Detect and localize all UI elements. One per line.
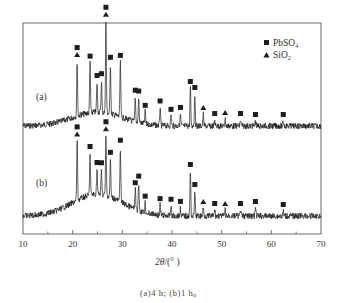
svg-text:20: 20: [68, 239, 78, 249]
pbso4-square-icon: [95, 73, 100, 78]
svg-text:10: 10: [19, 239, 29, 249]
sio2-triangle-icon: [103, 12, 109, 17]
pbso4-square-icon: [192, 182, 197, 187]
x-axis-tick-labels: 10203040506070: [19, 239, 327, 249]
pbso4-square-icon: [95, 160, 100, 165]
pbso4-square-icon: [143, 194, 148, 199]
legend-label-sio2: SiO2: [273, 50, 291, 61]
pbso4-square-icon: [212, 201, 217, 206]
pbso4-square-icon: [238, 111, 243, 116]
x-axis-title: 2θ/(° ): [155, 257, 180, 268]
curve-label-a: (a): [36, 92, 47, 103]
legend: PbSO4 SiO2: [264, 38, 299, 61]
legend-square-icon: [264, 40, 269, 45]
xrd-curve-b: [23, 136, 321, 219]
pbso4-square-icon: [118, 138, 123, 143]
pbso4-square-icon: [108, 55, 113, 60]
pbso4-square-icon: [188, 79, 193, 84]
pbso4-square-icon: [192, 85, 197, 90]
phase-markers-a: [74, 5, 286, 117]
pbso4-square-icon: [212, 111, 217, 116]
pbso4-square-icon: [253, 112, 258, 117]
phase-markers-b: [74, 119, 286, 207]
svg-text:40: 40: [168, 239, 178, 249]
figure-caption: (a)4 h; (b)1 h。: [0, 286, 343, 298]
pbso4-square-icon: [143, 103, 148, 108]
sio2-triangle-icon: [74, 52, 80, 57]
pbso4-square-icon: [133, 180, 138, 185]
svg-text:60: 60: [267, 239, 277, 249]
pbso4-square-icon: [238, 201, 243, 206]
pbso4-square-icon: [88, 144, 93, 149]
pbso4-square-icon: [281, 202, 286, 207]
pbso4-square-icon: [169, 107, 174, 112]
sio2-triangle-icon: [74, 131, 80, 136]
pbso4-square-icon: [136, 89, 141, 94]
svg-text:70: 70: [317, 239, 327, 249]
pbso4-square-icon: [99, 71, 104, 76]
sio2-triangle-icon: [200, 105, 206, 110]
sio2-triangle-icon: [222, 110, 228, 115]
legend-label-pbso4: PbSO4: [273, 38, 298, 49]
pbso4-square-icon: [178, 199, 183, 204]
legend-triangle-icon: [264, 52, 270, 58]
sio2-triangle-icon: [200, 199, 206, 204]
pbso4-square-icon: [253, 199, 258, 204]
pbso4-square-icon: [103, 5, 108, 10]
pbso4-square-icon: [99, 160, 104, 165]
pbso4-square-icon: [169, 197, 174, 202]
sio2-triangle-icon: [222, 201, 228, 206]
xrd-chart: 10203040506070 2θ/(° ) (a) (b) PbSO4 SiO…: [0, 0, 343, 303]
pbso4-square-icon: [158, 196, 163, 201]
pbso4-square-icon: [75, 45, 80, 50]
curve-label-b: (b): [36, 178, 47, 189]
svg-text:30: 30: [118, 239, 128, 249]
pbso4-square-icon: [136, 174, 141, 179]
x-axis-ticks: [48, 230, 296, 234]
pbso4-square-icon: [188, 162, 193, 167]
pbso4-square-icon: [178, 105, 183, 110]
pbso4-square-icon: [103, 119, 108, 124]
pbso4-square-icon: [88, 54, 93, 59]
pbso4-square-icon: [158, 98, 163, 103]
pbso4-square-icon: [108, 150, 113, 155]
pbso4-square-icon: [75, 124, 80, 129]
sio2-triangle-icon: [103, 126, 109, 131]
pbso4-square-icon: [281, 112, 286, 117]
svg-text:50: 50: [217, 239, 227, 249]
pbso4-square-icon: [118, 53, 123, 58]
